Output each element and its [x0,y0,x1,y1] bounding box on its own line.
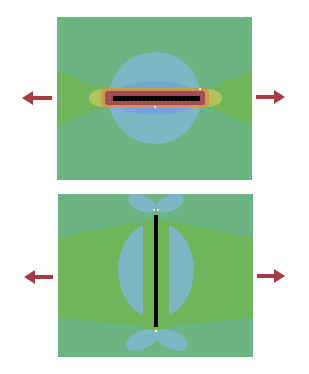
top-panel [57,17,252,180]
bottom-panel [58,189,253,357]
bottom-left-tension-arrow-icon [24,270,53,284]
top-left-tension-arrow-icon [22,91,52,105]
top-right-tension-arrow-icon [256,90,285,104]
stress-field-figure [0,0,309,374]
bottom-right-tension-arrow-icon [257,269,285,283]
